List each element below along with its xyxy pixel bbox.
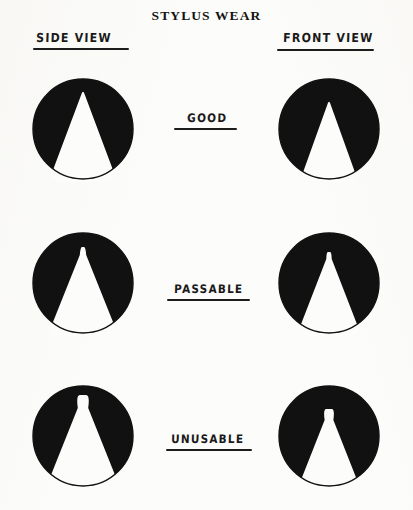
- stylus-shape: [276, 383, 382, 489]
- column-heading-front-view: FRONT VIEW: [283, 30, 374, 45]
- grade-label-passable: PASSABLE: [174, 282, 244, 295]
- column-heading-front-view-underline: [277, 49, 374, 51]
- column-heading-side-view-underline: [33, 48, 129, 50]
- stylus-diagram-side-good: [30, 76, 136, 182]
- page-title: STYLUS WEAR: [0, 8, 413, 24]
- stylus-shape: [30, 230, 136, 336]
- stylus-shape: [30, 76, 136, 182]
- stylus-diagram-front-good: [276, 76, 382, 182]
- grade-label-unusable: UNUSABLE: [171, 432, 244, 445]
- column-heading-side-view: SIDE VIEW: [36, 30, 112, 45]
- grade-label-good: GOOD: [187, 111, 227, 124]
- grade-label-good-underline: [174, 128, 237, 130]
- stylus-diagram-side-passable: [30, 230, 136, 336]
- stylus-diagram-front-passable: [276, 230, 382, 336]
- grade-label-passable-underline: [167, 299, 250, 301]
- stylus-diagram-front-unusable: [276, 383, 382, 489]
- stylus-shape: [276, 230, 382, 336]
- stylus-shape: [276, 76, 382, 182]
- stylus-diagram-side-unusable: [30, 383, 136, 489]
- grade-label-unusable-underline: [166, 449, 252, 451]
- scanned-page: STYLUS WEAR SIDE VIEW FRONT VIEW GOOD PA…: [0, 0, 413, 510]
- stylus-shape: [30, 383, 136, 489]
